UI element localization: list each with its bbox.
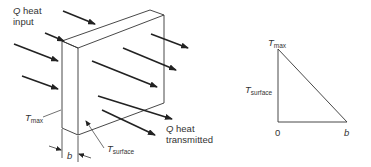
graph-x-end-label: b <box>344 127 349 138</box>
temperature-profile-line <box>278 49 347 122</box>
graph-t-max-label: Tmax <box>268 37 286 51</box>
input-arrow <box>63 11 95 24</box>
heat-input-label: Q heat input <box>13 5 42 27</box>
transmitted-arrow <box>98 96 172 119</box>
slab-t-surface-label: Tsurface <box>107 143 134 157</box>
t-max-leader <box>43 110 61 117</box>
slab <box>62 10 164 135</box>
transmitted-arrow <box>102 110 155 135</box>
input-arrow <box>45 33 64 41</box>
graph-t-surface-label: Tsurface <box>245 84 272 98</box>
transmitted-arrow <box>151 34 188 48</box>
thickness-label: b <box>67 150 72 161</box>
slab-top-face <box>62 10 164 48</box>
t-surface-leader <box>86 121 104 148</box>
slab-right-face <box>78 15 164 135</box>
slab-t-max-label: Tmax <box>25 112 43 126</box>
input-arrow <box>14 44 58 61</box>
graph-origin-label: 0 <box>275 127 280 138</box>
heat-transmitted-label: Q heat transmitted <box>166 123 213 145</box>
heat-transmitted-arrows <box>92 34 188 135</box>
input-arrow <box>22 76 58 89</box>
slab-front-face <box>62 41 78 135</box>
transmitted-arrow <box>123 48 176 70</box>
temperature-profile-graph <box>278 49 347 122</box>
transmitted-arrow <box>92 61 157 87</box>
